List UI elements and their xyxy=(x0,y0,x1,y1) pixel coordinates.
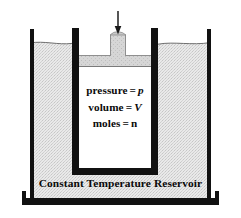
tank-wall-left xyxy=(30,29,34,201)
tank-foot-right xyxy=(215,191,219,201)
gas-properties-list: pressure=p volume=V moles=n xyxy=(72,84,158,134)
gas-property-volume: volume=V xyxy=(72,101,158,113)
reservoir-label: Constant Temperature Reservoir xyxy=(0,177,241,189)
cylinder-bottom xyxy=(72,168,158,175)
piston-stem xyxy=(110,35,126,56)
gas-property-symbol: p xyxy=(138,84,144,96)
pv-cylinder-diagram: pressure=p volume=V moles=n Constant Tem… xyxy=(0,0,241,218)
gas-property-pressure: pressure=p xyxy=(72,84,158,96)
gas-property-name: moles xyxy=(93,117,121,129)
tank-bottom xyxy=(22,198,219,205)
equals-sign: = xyxy=(124,101,134,113)
gas-property-symbol: n xyxy=(131,117,137,129)
gas-property-name: pressure xyxy=(86,84,127,96)
gas-property-moles: moles=n xyxy=(72,117,158,129)
equals-sign: = xyxy=(128,84,138,96)
gas-property-name: volume xyxy=(88,101,123,113)
equals-sign: = xyxy=(121,117,131,129)
piston-head xyxy=(79,55,151,67)
tank-foot-left xyxy=(22,191,26,201)
tank-wall-right xyxy=(207,29,211,201)
gas-property-symbol: V xyxy=(134,101,142,113)
